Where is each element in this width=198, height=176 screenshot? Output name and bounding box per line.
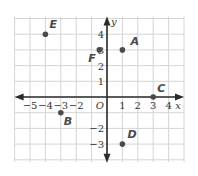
point-d-label: D [127, 128, 136, 141]
y-tick-label: −2 [89, 123, 104, 134]
x-tick-label: −4 [38, 100, 53, 111]
coordinate-plane: −5−4−3−212344321−2−3Oxy ABCDEF [0, 0, 198, 176]
point-c-label: C [157, 82, 165, 95]
point-f-label: F [88, 52, 96, 65]
point-e-label: E [49, 18, 57, 31]
point-e-dot [43, 31, 49, 37]
y-axis-arrow-down-icon [104, 154, 111, 163]
y-tick-label: 4 [98, 29, 104, 40]
x-tick-label: 2 [135, 100, 141, 111]
point-c-dot [150, 94, 156, 100]
x-axis-label: x [175, 100, 181, 111]
point-a-label: A [129, 35, 139, 48]
x-tick-label: −2 [69, 100, 84, 111]
x-tick-label: 1 [119, 100, 125, 111]
origin-label: O [96, 100, 104, 111]
y-tick-label: 1 [98, 76, 104, 87]
point-f-dot [97, 47, 103, 53]
point-b-label: B [64, 115, 72, 128]
x-tick-label: −3 [53, 100, 68, 111]
y-tick-label: −3 [89, 139, 104, 150]
y-axis-arrow-up-icon [104, 17, 111, 26]
x-tick-label: 3 [150, 100, 156, 111]
point-a-dot [120, 47, 126, 53]
x-tick-label: −5 [23, 100, 38, 111]
y-axis-label: y [110, 16, 117, 27]
y-tick-label: 2 [98, 61, 104, 72]
point-d-dot [120, 141, 126, 147]
point-b-dot [58, 110, 64, 116]
x-tick-label: 4 [165, 100, 171, 111]
